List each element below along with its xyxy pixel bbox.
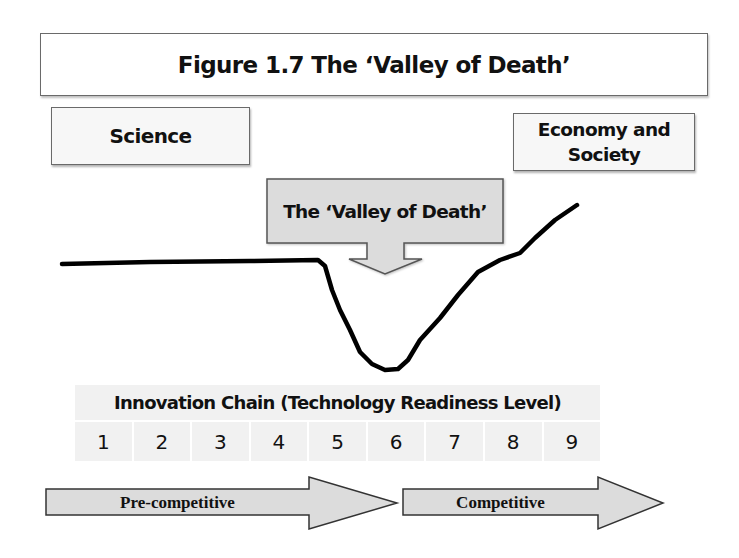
competitive-label: Competitive: [403, 489, 598, 517]
trl-level-cell: 9: [544, 422, 601, 461]
competitive-arrow: Competitive: [401, 474, 667, 532]
trl-level-cell: 3: [192, 422, 249, 461]
trl-level-cell: 1: [75, 422, 132, 461]
pre-competitive-arrow: Pre-competitive: [44, 474, 400, 532]
valley-of-death-callout: The ‘Valley of Death’: [262, 176, 510, 280]
trl-level-cell: 6: [368, 422, 425, 461]
innovation-chain-table: Innovation Chain (Technology Readiness L…: [75, 385, 600, 461]
pre-competitive-label: Pre-competitive: [46, 489, 309, 517]
trl-level-cell: 7: [426, 422, 483, 461]
trl-levels-row: 1 2 3 4 5 6 7 8 9: [75, 422, 600, 461]
trl-level-cell: 8: [485, 422, 542, 461]
innovation-chain-header: Innovation Chain (Technology Readiness L…: [75, 385, 600, 420]
valley-of-death-label: The ‘Valley of Death’: [267, 179, 503, 243]
trl-level-cell: 5: [309, 422, 366, 461]
trl-level-cell: 2: [134, 422, 191, 461]
trl-level-cell: 4: [251, 422, 308, 461]
